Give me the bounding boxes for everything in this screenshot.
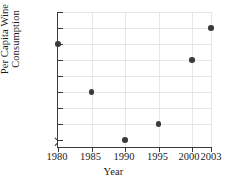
gridline-horizontal — [58, 76, 211, 77]
gridline-vertical — [211, 12, 212, 147]
y-tick-mark — [58, 60, 63, 61]
gridline-horizontal — [58, 44, 211, 45]
data-point — [189, 57, 195, 63]
y-tick-mark — [58, 28, 63, 29]
plot-area — [57, 12, 211, 148]
data-point — [55, 41, 61, 47]
gridline-vertical — [92, 12, 93, 147]
y-tick-mark — [58, 140, 63, 141]
x-tick-label: 2003 — [191, 151, 227, 162]
gridline-horizontal — [58, 60, 211, 61]
data-point — [156, 121, 162, 127]
y-tick-mark — [58, 124, 63, 125]
gridline-horizontal — [58, 92, 211, 93]
data-point — [208, 25, 214, 31]
data-point — [89, 89, 95, 95]
gridline-vertical — [125, 12, 126, 147]
y-tick-mark — [58, 76, 63, 77]
scatter-chart-figure: Per Capita Wine Consumption 2.8 2.7 2.6 … — [0, 0, 227, 183]
gridline-horizontal — [58, 12, 211, 13]
y-axis-title: Per Capita Wine Consumption — [0, 0, 23, 101]
x-axis-title: Year — [0, 166, 227, 177]
y-tick-mark — [58, 92, 63, 93]
gridline-horizontal — [58, 28, 211, 29]
y-tick-mark — [58, 108, 63, 109]
gridline-horizontal — [58, 124, 211, 125]
y-tick-mark — [58, 12, 63, 13]
gridline-horizontal — [58, 108, 211, 109]
gridline-vertical — [192, 12, 193, 147]
data-point — [122, 137, 128, 143]
